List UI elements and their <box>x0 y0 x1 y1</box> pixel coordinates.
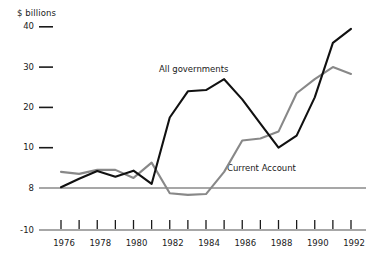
y-axis-tick-marks <box>39 27 53 148</box>
chart-figure: $ billions 40 30 20 10 8 -10 1976 1978 1… <box>0 0 383 261</box>
data-line-all-governments <box>61 29 351 187</box>
x-axis-tick-marks <box>61 220 351 229</box>
data-line-current-account <box>61 67 351 195</box>
chart-plot-area <box>0 0 383 261</box>
